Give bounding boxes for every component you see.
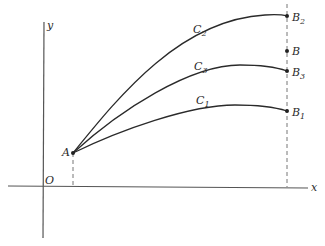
point-b1 [285, 109, 289, 113]
curve-c1 [73, 105, 287, 153]
curve-c3-label: C3 [194, 60, 208, 75]
y-axis-label: y [46, 19, 54, 32]
point-a-label: A [61, 146, 70, 159]
point-b2 [285, 14, 289, 18]
curve-c2 [73, 15, 287, 153]
diagram-canvas: y x O A B2 B B3 B1 C2 C3 C1 [0, 0, 325, 246]
point-b1-label: B1 [291, 106, 305, 121]
point-b [285, 49, 289, 53]
x-axis-label: x [311, 181, 318, 194]
curve-c1-label: C1 [196, 94, 210, 109]
point-b3-label: B3 [291, 66, 305, 81]
y-axis [43, 22, 44, 238]
curve-c3 [73, 65, 287, 153]
curves-diagram: y x O A B2 B B3 B1 C2 C3 C1 [0, 0, 325, 246]
point-b-label: B [291, 45, 300, 58]
point-a [71, 151, 75, 155]
point-b3 [285, 69, 289, 73]
point-b2-label: B2 [291, 11, 305, 26]
curve-c2-label: C2 [193, 23, 207, 38]
origin-label: O [45, 174, 54, 187]
